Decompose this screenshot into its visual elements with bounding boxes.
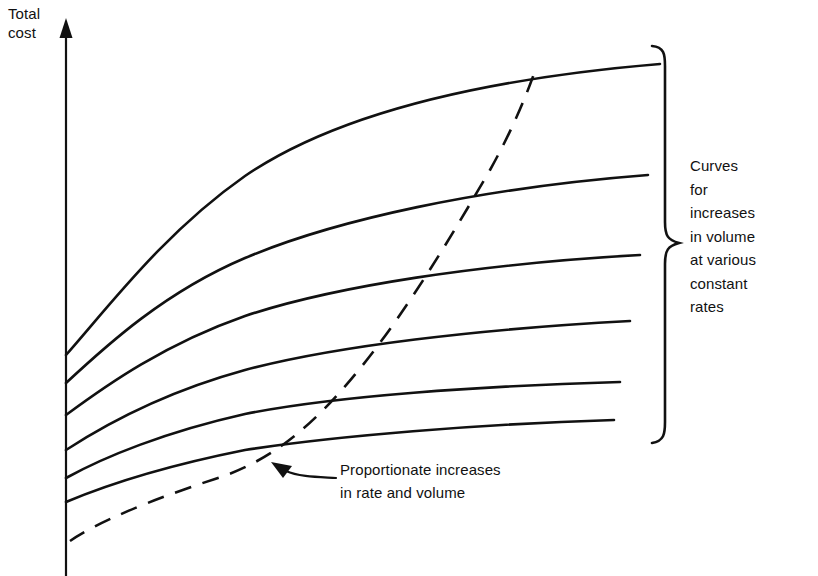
volume-curve-2 — [66, 175, 648, 383]
chart-figure: Total cost Curves for increases in volum… — [0, 0, 818, 576]
cost-curve-group — [66, 64, 660, 502]
annotation-arrow — [271, 462, 336, 478]
volume-curve-3 — [66, 255, 640, 415]
curly-brace — [652, 46, 679, 443]
volume-curve-1 — [66, 64, 660, 355]
y-axis-label: Total cost — [8, 4, 40, 42]
curly-brace-note-text: Curves for increases in volume at variou… — [690, 154, 756, 319]
proportionate-increase-note-text: Proportionate increases in rate and volu… — [340, 458, 501, 504]
y-axis — [60, 18, 73, 576]
